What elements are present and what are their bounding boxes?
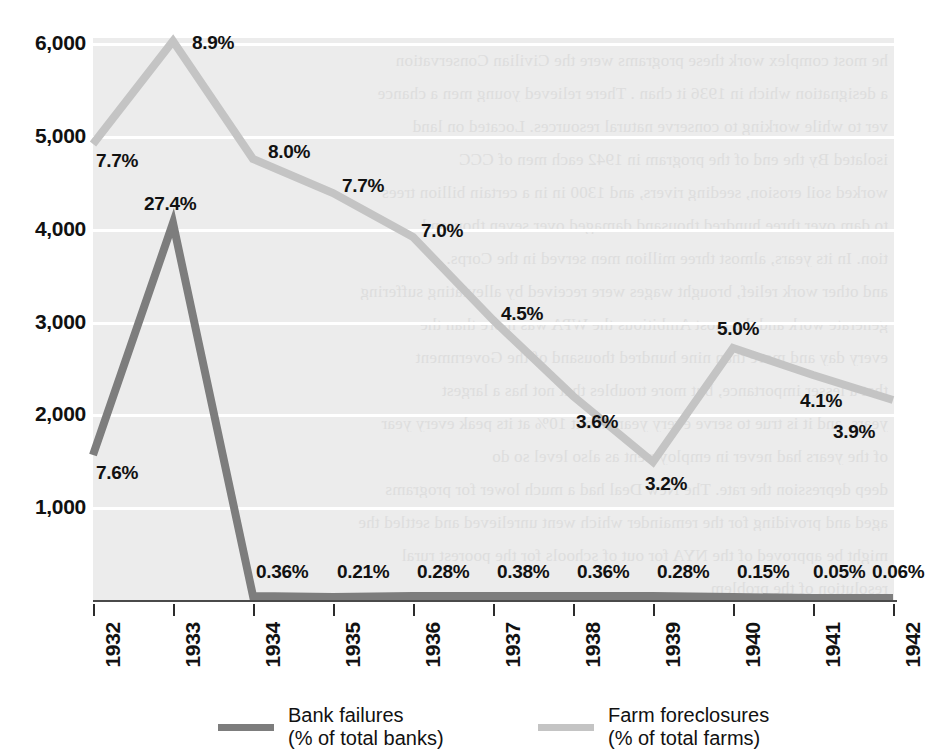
x-tick-1935 — [333, 604, 335, 616]
legend-label-bank-failures-line2: (% of total banks) — [288, 727, 444, 750]
farm-point-label-1935: 7.7% — [342, 175, 384, 197]
bank-point-label-1938: 0.36% — [577, 561, 629, 583]
bank-point-label-1940: 0.15% — [737, 561, 789, 583]
x-tick-1942 — [893, 604, 895, 616]
bank-point-label-1939: 0.28% — [657, 561, 709, 583]
x-axis-label-1933: 1933 — [181, 622, 205, 668]
x-axis-label-1937: 1937 — [501, 622, 525, 668]
farm-point-label-1940: 5.0% — [717, 318, 759, 340]
x-tick-1939 — [653, 604, 655, 616]
x-tick-1937 — [493, 604, 495, 616]
bank-point-label-1936: 0.28% — [417, 561, 469, 583]
x-axis-label-1942: 1942 — [901, 622, 925, 668]
bank-failures-line — [93, 223, 893, 598]
bank-point-label-1933: 27.4% — [144, 193, 196, 215]
legend-label-farm-foreclosures-line1: Farm foreclosures — [608, 704, 769, 727]
legend-swatch-bank-failures — [218, 724, 274, 731]
x-axis-label-1938: 1938 — [581, 622, 605, 668]
series-layer — [0, 0, 926, 752]
x-axis-label-1936: 1936 — [421, 622, 445, 668]
x-tick-1936 — [413, 604, 415, 616]
x-axis-label-1940: 1940 — [741, 622, 765, 668]
x-tick-1934 — [253, 604, 255, 616]
farm-point-label-1938: 3.6% — [576, 411, 618, 433]
farm-point-label-1936: 7.0% — [421, 220, 463, 242]
x-tick-1932 — [93, 604, 95, 616]
farm-point-label-1932: 7.7% — [96, 150, 138, 172]
x-tick-1941 — [813, 604, 815, 616]
farm-point-label-1939: 3.2% — [645, 473, 687, 495]
legend-entry-bank-failures[interactable]: Bank failures (% of total banks) — [218, 704, 444, 750]
bank-point-label-1942: 0.06% — [872, 561, 924, 583]
x-axis-label-1939: 1939 — [661, 622, 685, 668]
farm-point-label-1934: 8.0% — [268, 141, 310, 163]
legend-label-bank-failures-line1: Bank failures — [288, 704, 444, 727]
legend-entry-farm-foreclosures[interactable]: Farm foreclosures (% of total farms) — [538, 704, 769, 750]
x-axis-line — [93, 600, 897, 602]
x-tick-1933 — [173, 604, 175, 616]
farm-point-label-1933: 8.9% — [192, 32, 234, 54]
bank-point-label-1937: 0.38% — [497, 561, 549, 583]
x-axis-label-1934: 1934 — [261, 622, 285, 668]
legend-label-farm-foreclosures-line2: (% of total farms) — [608, 727, 769, 750]
farm-point-label-1942: 3.9% — [833, 421, 875, 443]
farm-point-label-1941: 4.1% — [800, 390, 842, 412]
x-axis-label-1935: 1935 — [341, 622, 365, 668]
chart-figure: he most complex work these programs were… — [0, 0, 926, 752]
x-axis-label-1941: 1941 — [821, 622, 845, 668]
farm-point-label-1937: 4.5% — [501, 303, 543, 325]
bank-point-label-1934: 0.36% — [256, 561, 308, 583]
bank-point-label-1935: 0.21% — [337, 561, 389, 583]
x-tick-1940 — [733, 604, 735, 616]
chart-legend: Bank failures (% of total banks) Farm fo… — [93, 690, 894, 752]
bank-point-label-1941: 0.05% — [813, 561, 865, 583]
x-axis-label-1932: 1932 — [101, 622, 125, 668]
legend-label-farm-foreclosures: Farm foreclosures (% of total farms) — [608, 704, 769, 750]
x-tick-1938 — [573, 604, 575, 616]
bank-point-label-1932: 7.6% — [96, 462, 138, 484]
legend-label-bank-failures: Bank failures (% of total banks) — [288, 704, 444, 750]
legend-swatch-farm-foreclosures — [538, 724, 594, 731]
